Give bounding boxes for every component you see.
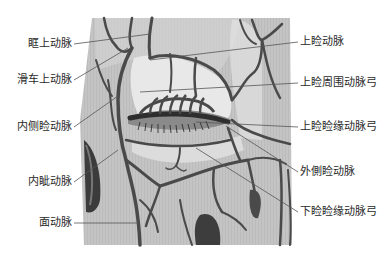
anatomy-diagram: 眶上动脉 滑车上动脉 内侧睑动脉 内眦动脉 面动脉 上睑动脉 上睑周围动脉弓 上… [0, 0, 388, 258]
label-supraorbital-artery: 眶上动脉 [28, 38, 72, 50]
label-angular-artery: 内眦动脉 [28, 176, 72, 188]
label-medial-palpebral-artery: 内侧睑动脉 [17, 121, 72, 133]
label-superior-peripheral-arcade: 上睑周围动脉弓 [300, 77, 377, 89]
label-inferior-marginal-arcade: 下睑睑缘动脉弓 [300, 206, 377, 218]
label-supratrochlear-artery: 滑车上动脉 [17, 74, 72, 86]
label-superior-marginal-arcade: 上睑睑缘动脉弓 [300, 121, 377, 133]
label-lateral-palpebral-artery: 外側睑动脉 [300, 166, 355, 178]
label-superior-palpebral-artery: 上睑动脉 [300, 36, 344, 48]
label-facial-artery: 面动脉 [39, 217, 72, 229]
